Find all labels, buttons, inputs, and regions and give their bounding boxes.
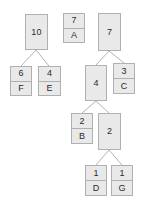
tree-node[interactable]: 6F [10,66,32,96]
node-weight: 10 [26,15,47,49]
node-symbol: E [39,82,60,96]
node-symbol: A [64,29,84,43]
node-weight: 1 [86,166,106,181]
node-weight: 2 [99,114,120,149]
tree-node[interactable]: 1D [85,165,107,196]
node-weight: 7 [64,14,84,29]
tree-edge [96,150,109,165]
tree-node[interactable]: 4 [85,65,107,101]
tree-edge [82,101,96,113]
tree-edge [109,51,124,63]
node-symbol: D [86,181,106,195]
node-weight: 1 [112,166,132,181]
node-weight: 4 [86,66,106,100]
tree-node[interactable]: 4E [38,66,61,96]
node-weight: 4 [39,67,60,82]
tree-node[interactable]: 10 [25,14,48,50]
tree-node[interactable]: 7A [63,13,85,43]
tree-edge [96,51,109,65]
tree-edge [96,101,109,113]
node-weight: 7 [99,14,120,50]
tree-edge [109,150,122,165]
node-symbol: C [114,79,134,93]
huffman-tree-diagram: 106F4E7A743C2B21D1G [0,0,147,208]
tree-node[interactable]: 3C [113,63,135,94]
node-symbol: B [72,129,92,143]
tree-edge [36,50,49,66]
tree-node[interactable]: 2 [98,113,121,150]
tree-node[interactable]: 7 [98,13,121,51]
node-symbol: F [11,82,31,96]
node-symbol: G [112,181,132,195]
node-weight: 6 [11,67,31,82]
node-weight: 3 [114,64,134,79]
node-weight: 2 [72,114,92,129]
tree-node[interactable]: 1G [111,165,133,196]
tree-node[interactable]: 2B [71,113,93,144]
tree-edge [21,50,36,66]
